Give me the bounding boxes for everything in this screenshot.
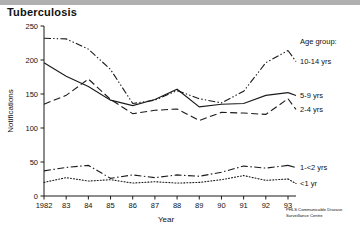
legend-leader (288, 93, 296, 96)
x-tick-label: 92 (262, 201, 270, 210)
y-tick-label: 50 (30, 158, 38, 167)
legend-label: <1 yr (300, 179, 317, 188)
y-axis-label: Notifications (6, 89, 15, 133)
legend-leader (288, 99, 296, 110)
series-line (44, 79, 288, 120)
x-tick-label: 84 (84, 201, 92, 210)
x-axis-label: Year (158, 215, 175, 224)
x-tick-label: 89 (195, 201, 203, 210)
legend-leader (288, 50, 296, 61)
x-tick-label: 91 (239, 201, 247, 210)
y-tick-label: 200 (25, 56, 38, 65)
source-line-2: Surveillance Centre (286, 213, 323, 218)
series-line (44, 165, 288, 178)
legend-label: 5-9 yrs (300, 91, 323, 100)
legend-label: 1-<2 yrs (300, 163, 328, 172)
y-tick-label: 250 (25, 22, 38, 31)
x-tick-label: 1982 (36, 201, 53, 210)
legend-label: 10-14 yrs (300, 57, 332, 66)
legend-leader (288, 179, 296, 184)
source-line-1: PHLS Communicable Disease (286, 207, 343, 212)
y-tick-label: 150 (25, 90, 38, 99)
x-tick-label: 87 (151, 201, 159, 210)
legend-header: Age group: (300, 37, 337, 46)
y-tick-label: 0 (34, 192, 38, 201)
x-tick-label: 88 (173, 201, 181, 210)
x-tick-label: 90 (217, 201, 225, 210)
x-tick-label: 85 (106, 201, 114, 210)
figure-panel: Tuberculosis 050100150200250198283848586… (0, 0, 360, 233)
x-tick-label: 83 (62, 201, 70, 210)
series-line (44, 63, 288, 107)
legend-leader (288, 165, 296, 167)
series-line (44, 38, 288, 103)
x-tick-label: 86 (129, 201, 137, 210)
chart-canvas: 0501001502002501982838485868788899091929… (0, 0, 360, 233)
y-tick-label: 100 (25, 124, 38, 133)
legend-label: 2-4 yrs (300, 105, 323, 114)
